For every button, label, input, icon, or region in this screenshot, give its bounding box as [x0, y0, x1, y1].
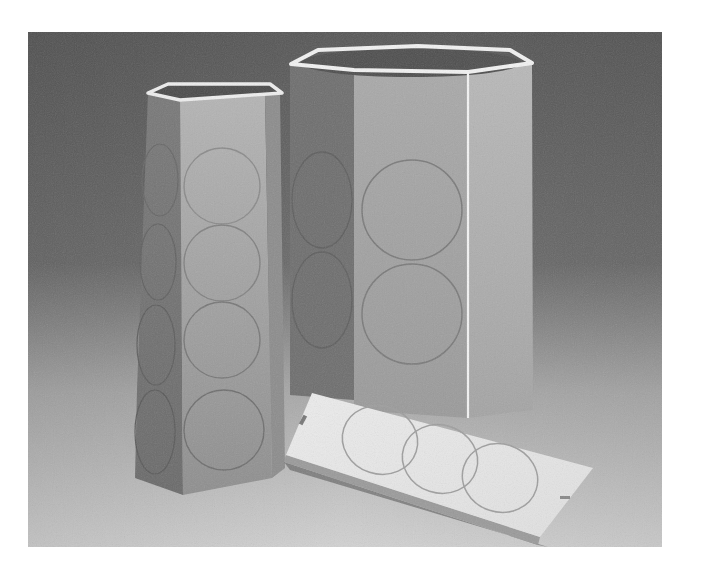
photograph	[28, 32, 662, 547]
